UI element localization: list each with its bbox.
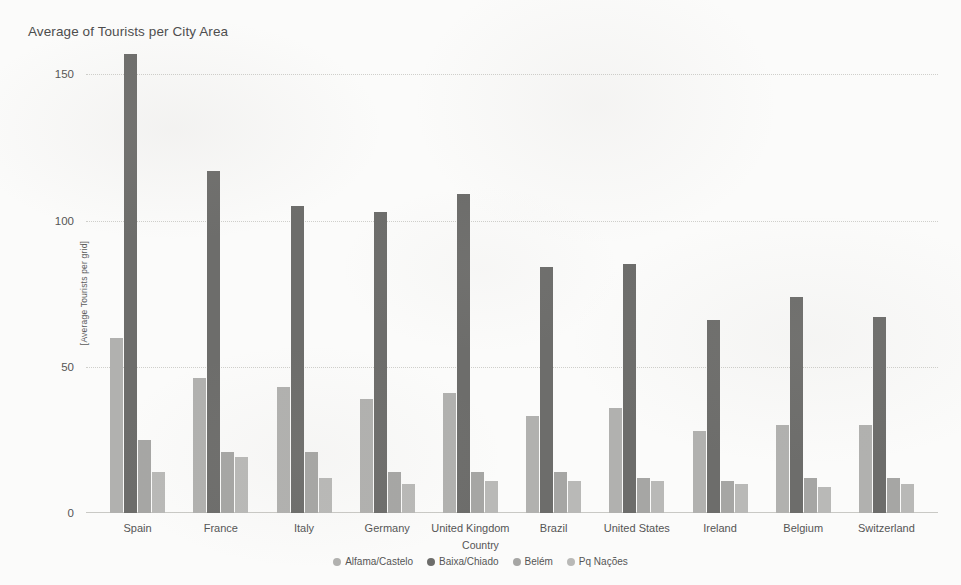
y-axis-tick-label: 150	[55, 68, 74, 80]
legend-label: Belém	[525, 556, 553, 567]
bar[interactable]	[305, 452, 318, 513]
legend-label: Baixa/Chiado	[439, 556, 498, 567]
x-axis-tick-label: Brazil	[540, 522, 568, 534]
bar[interactable]	[485, 481, 498, 513]
x-axis-tick-label: Belgium	[783, 522, 823, 534]
bar[interactable]	[207, 171, 220, 513]
legend-swatch-icon	[567, 558, 575, 566]
bar-group: France	[179, 45, 262, 513]
bar-group: United Kingdom	[429, 45, 512, 513]
x-axis-tick-label: Ireland	[703, 522, 737, 534]
bar-group: United States	[595, 45, 678, 513]
x-axis-tick-label: Spain	[124, 522, 152, 534]
x-axis-tick-label: Germany	[365, 522, 410, 534]
bar[interactable]	[651, 481, 664, 513]
bar[interactable]	[388, 472, 401, 513]
bar[interactable]	[152, 472, 165, 513]
bar[interactable]	[457, 194, 470, 513]
bar[interactable]	[193, 378, 206, 513]
y-axis-tick-label: 0	[68, 507, 74, 519]
chart-legend: Alfama/CasteloBaixa/ChiadoBelémPq Nações	[0, 556, 961, 567]
legend-swatch-icon	[333, 558, 341, 566]
page-title: Average of Tourists per City Area	[28, 24, 228, 39]
legend-item[interactable]: Pq Nações	[567, 556, 628, 567]
x-axis-tick-label: Italy	[294, 522, 314, 534]
bar[interactable]	[526, 416, 539, 513]
bar-group: Belgium	[762, 45, 845, 513]
bar[interactable]	[637, 478, 650, 513]
bar[interactable]	[443, 393, 456, 513]
y-axis-tick-label: 50	[61, 361, 74, 373]
bar[interactable]	[790, 297, 803, 513]
bar[interactable]	[818, 487, 831, 513]
legend-item[interactable]: Alfama/Castelo	[333, 556, 413, 567]
bar[interactable]	[235, 457, 248, 513]
bar[interactable]	[319, 478, 332, 513]
bar[interactable]	[735, 484, 748, 513]
legend-item[interactable]: Belém	[513, 556, 553, 567]
bar-group: Italy	[262, 45, 345, 513]
bar[interactable]	[221, 452, 234, 513]
x-axis-tick-label: Switzerland	[858, 522, 915, 534]
bar[interactable]	[554, 472, 567, 513]
legend-label: Alfama/Castelo	[345, 556, 413, 567]
y-axis-tick-label: 100	[55, 215, 74, 227]
bar[interactable]	[291, 206, 304, 513]
bar[interactable]	[623, 264, 636, 513]
legend-swatch-icon	[513, 558, 521, 566]
x-axis-title: Country	[0, 539, 961, 551]
bar[interactable]	[568, 481, 581, 513]
bar[interactable]	[693, 431, 706, 513]
bar[interactable]	[776, 425, 789, 513]
x-axis-tick-label: France	[204, 522, 238, 534]
bar[interactable]	[540, 267, 553, 513]
bar[interactable]	[859, 425, 872, 513]
bar-group: Ireland	[678, 45, 761, 513]
bar-group: Germany	[346, 45, 429, 513]
legend-item[interactable]: Baixa/Chiado	[427, 556, 498, 567]
bar[interactable]	[707, 320, 720, 513]
bar-group: Brazil	[512, 45, 595, 513]
bar[interactable]	[471, 472, 484, 513]
bar[interactable]	[901, 484, 914, 513]
bar[interactable]	[804, 478, 817, 513]
bar[interactable]	[360, 399, 373, 513]
bar-groups: SpainFranceItalyGermanyUnited KingdomBra…	[86, 45, 938, 513]
bar[interactable]	[609, 408, 622, 513]
plot-area: 050100150 SpainFranceItalyGermanyUnited …	[86, 45, 938, 513]
bar[interactable]	[374, 212, 387, 513]
bar[interactable]	[887, 478, 900, 513]
bar[interactable]	[124, 54, 137, 513]
bar[interactable]	[110, 338, 123, 514]
bar-group: Spain	[96, 45, 179, 513]
bar[interactable]	[873, 317, 886, 513]
bar[interactable]	[277, 387, 290, 513]
legend-label: Pq Nações	[579, 556, 628, 567]
x-axis-tick-label: United Kingdom	[431, 522, 509, 534]
legend-swatch-icon	[427, 558, 435, 566]
x-axis-tick-label: United States	[604, 522, 670, 534]
bar[interactable]	[402, 484, 415, 513]
bar[interactable]	[721, 481, 734, 513]
bar-group: Switzerland	[845, 45, 928, 513]
bar[interactable]	[138, 440, 151, 513]
